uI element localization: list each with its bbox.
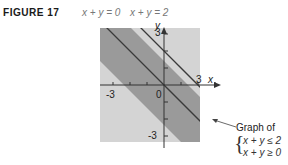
inequality-upper: x + y ≤ 2 [243,135,281,146]
inequality-lower: x + y ≥ 0 [243,147,281,158]
